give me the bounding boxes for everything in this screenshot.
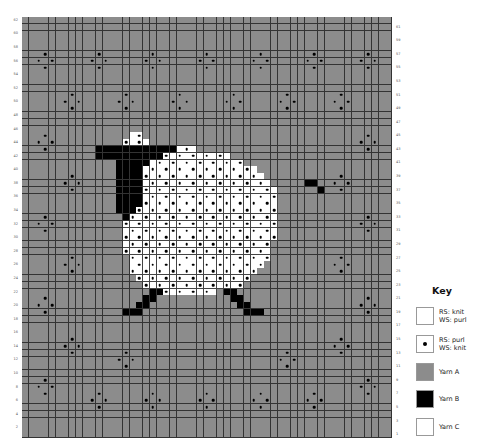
purl-dot-icon — [212, 243, 215, 246]
purl-dot-icon — [340, 189, 343, 192]
purl-dot-icon — [279, 358, 282, 361]
purl-dot-icon — [273, 209, 276, 212]
purl-dot-icon — [125, 93, 128, 96]
row-number-label: 15 — [396, 337, 410, 341]
purl-dot-icon — [44, 311, 47, 314]
row-number-label: 55 — [396, 65, 410, 69]
purl-dot-icon — [172, 189, 175, 192]
purl-dot-icon — [212, 399, 215, 402]
row-number-label: 24 — [4, 276, 18, 280]
row-number-label: 26 — [4, 262, 18, 266]
purl-dot-icon — [286, 107, 289, 110]
purl-dot-icon — [125, 223, 128, 226]
row-number-label: 51 — [396, 93, 410, 97]
purl-dot-icon — [71, 107, 74, 110]
purl-dot-icon — [44, 53, 47, 56]
row-number-label: 20 — [4, 303, 18, 307]
purl-dot-icon — [64, 100, 67, 103]
row-number-label: 47 — [396, 120, 410, 124]
purl-dot-icon — [205, 406, 208, 409]
purl-dot-icon — [185, 229, 188, 232]
purl-dot-icon — [360, 60, 363, 63]
purl-dot-icon — [306, 399, 309, 402]
purl-dot-icon — [205, 209, 208, 212]
key-item: RS: purlWS: knit — [416, 335, 466, 353]
purl-dot-icon — [185, 243, 188, 246]
purl-dot-icon — [374, 141, 377, 144]
purl-dot-icon — [219, 182, 222, 185]
purl-dot-icon — [44, 66, 47, 69]
purl-dot-icon — [239, 284, 242, 287]
purl-dot-icon — [259, 263, 262, 266]
purl-dot-icon — [64, 182, 67, 185]
row-number-label: 3 — [396, 419, 410, 423]
purl-dot-icon — [37, 223, 40, 226]
purl-dot-icon — [158, 243, 161, 246]
purl-dot-icon — [152, 168, 155, 171]
purl-dot-icon — [178, 223, 181, 226]
purl-dot-icon — [64, 345, 67, 348]
purl-dot-icon — [252, 216, 255, 219]
purl-dot-icon — [138, 209, 141, 212]
purl-dot-icon — [178, 263, 181, 266]
purl-dot-icon — [71, 338, 74, 341]
purl-dot-icon — [37, 304, 40, 307]
purl-dot-icon — [125, 352, 128, 355]
purl-dot-icon — [37, 385, 40, 388]
row-number-label: 40 — [4, 167, 18, 171]
row-number-label: 60 — [4, 31, 18, 35]
purl-dot-icon — [219, 236, 222, 239]
purl-dot-icon — [192, 290, 195, 293]
purl-dot-icon — [104, 60, 107, 63]
key-label: Yarn B — [439, 395, 459, 403]
purl-dot-icon — [152, 195, 155, 198]
purl-dot-icon — [158, 216, 161, 219]
purl-dot-icon — [131, 270, 134, 273]
purl-dot-icon — [172, 229, 175, 232]
purl-dot-icon — [118, 358, 121, 361]
purl-dot-icon — [226, 243, 229, 246]
purl-dot-icon — [232, 182, 235, 185]
purl-dot-icon — [273, 223, 276, 226]
purl-dot-icon — [313, 406, 316, 409]
row-number-label: 52 — [4, 86, 18, 90]
purl-dot-icon — [347, 263, 350, 266]
row-number-label: 41 — [396, 160, 410, 164]
purl-dot-icon — [199, 60, 202, 63]
purl-dot-icon — [199, 243, 202, 246]
row-number-label: 14 — [4, 344, 18, 348]
purl-dot-icon — [205, 182, 208, 185]
purl-dot-icon — [145, 189, 148, 192]
purl-dot-icon — [313, 66, 316, 69]
purl-dot-icon — [178, 93, 181, 96]
purl-dot-icon — [178, 195, 181, 198]
color-swatch — [416, 390, 434, 408]
purl-dot-icon — [104, 399, 107, 402]
purl-dot-icon — [165, 223, 168, 226]
purl-dot-icon — [158, 399, 161, 402]
purl-dot-icon — [51, 60, 54, 63]
purl-dot-icon — [360, 304, 363, 307]
key-item: Yarn A — [416, 363, 459, 381]
purl-dot-icon — [360, 223, 363, 226]
purl-dot-icon — [239, 202, 242, 205]
purl-dot-icon — [212, 229, 215, 232]
purl-dot-icon — [205, 223, 208, 226]
purl-dot-icon — [266, 399, 269, 402]
purl-dot-icon — [347, 100, 350, 103]
row-number-label: 31 — [396, 228, 410, 232]
key-title: Key — [400, 285, 484, 296]
purl-dot-icon — [246, 236, 249, 239]
purl-dot-icon — [152, 182, 155, 185]
purl-dot-icon — [232, 107, 235, 110]
purl-dot-icon — [44, 229, 47, 232]
key-label: Yarn A — [439, 368, 459, 376]
knitting-chart-grid — [22, 17, 392, 438]
row-number-label: 13 — [396, 351, 410, 355]
purl-dot-icon — [212, 202, 215, 205]
purl-dot-icon — [374, 385, 377, 388]
purl-dot-icon — [246, 182, 249, 185]
purl-dot-icon — [199, 202, 202, 205]
purl-dot-icon — [199, 256, 202, 259]
row-number-label: 50 — [4, 99, 18, 103]
